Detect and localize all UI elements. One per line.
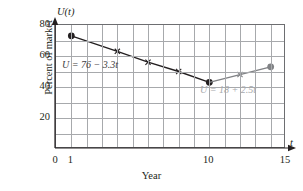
gridline-vertical [87,25,88,147]
gridline-horizontal [56,72,284,73]
gridline-vertical [163,25,164,147]
gridline-vertical [133,25,134,147]
gridline-horizontal [56,56,284,57]
gridline-vertical [179,25,180,147]
gridline-vertical [71,25,72,147]
x-axis-title: Year [0,170,303,181]
gridline-horizontal [56,103,284,104]
gridline-vertical [117,25,118,147]
x-tick-10: 10 [196,155,220,166]
y-axis-symbol: U(t) [57,6,75,17]
gridline-vertical [102,25,103,147]
y-tick-40: 40 [28,81,50,92]
x-tick-15: 15 [273,155,297,166]
equation-recovery: U = 18 + 2.5t [200,84,256,95]
x-axis-symbol: t [290,137,293,148]
x-tick-1: 1 [58,155,82,166]
gridline-horizontal [56,134,284,135]
gridline-vertical [271,25,272,147]
equation-decline: U = 76 − 3.3t [62,59,118,70]
y-tick-20: 20 [28,112,50,123]
chart-figure: U(t) Percent of market Year t 20406080 0… [0,0,303,191]
gridline-vertical [194,25,195,147]
gridline-horizontal [56,118,284,119]
y-tick-60: 60 [28,50,50,61]
y-tick-80: 80 [28,19,50,30]
gridline-vertical [148,25,149,147]
gridline-horizontal [56,41,284,42]
